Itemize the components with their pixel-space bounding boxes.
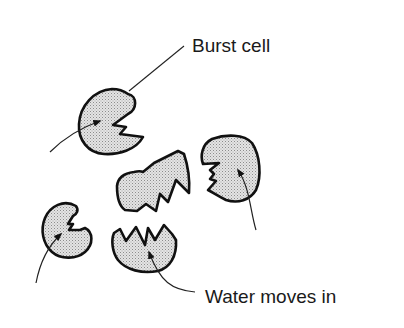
cell-bottom-left (36, 203, 91, 283)
burst-cell-label: Burst cell (192, 35, 270, 56)
cell-bottom-center (112, 225, 195, 292)
cell-right (202, 136, 260, 230)
burst-cells-diagram: Burst cell Water moves in (0, 0, 404, 328)
cell-center (117, 151, 189, 211)
cell-top-left (50, 89, 143, 154)
burst-cell-leader-line (129, 46, 184, 91)
water-moves-in-label: Water moves in (205, 286, 336, 307)
